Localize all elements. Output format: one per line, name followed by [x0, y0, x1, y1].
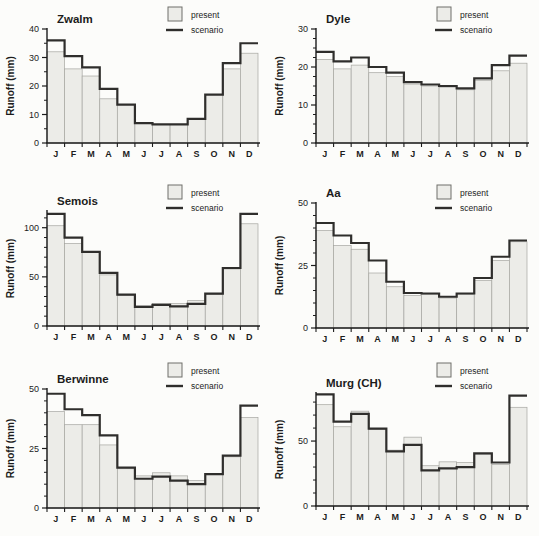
panel-title: Zwalm — [57, 13, 93, 25]
svg-text:A: A — [105, 149, 112, 159]
svg-text:20: 20 — [29, 81, 39, 91]
svg-text:M: M — [391, 149, 399, 159]
svg-text:D: D — [246, 332, 253, 342]
svg-text:N: N — [228, 514, 235, 524]
svg-text:F: F — [340, 512, 346, 522]
svg-text:25: 25 — [298, 261, 308, 271]
svg-text:A: A — [176, 332, 183, 342]
panel-zwalm: 010203040JFMAMJJASONDRunoff (mm)Zwalmpre… — [0, 0, 270, 178]
legend-scenario-label: scenario — [460, 381, 492, 391]
svg-text:D: D — [515, 334, 522, 344]
legend-present-label: present — [460, 366, 489, 376]
svg-text:J: J — [53, 149, 58, 159]
svg-text:A: A — [105, 514, 112, 524]
svg-text:A: A — [374, 512, 381, 522]
y-axis-label: Runoff (mm) — [5, 56, 16, 115]
svg-text:50: 50 — [298, 436, 308, 446]
svg-text:J: J — [322, 512, 327, 522]
svg-text:A: A — [374, 149, 381, 159]
svg-text:0: 0 — [34, 321, 39, 331]
legend-present-label: present — [460, 10, 489, 20]
svg-text:M: M — [122, 514, 130, 524]
legend-present-label: present — [191, 366, 220, 376]
y-axis-label: Runoff (mm) — [274, 56, 285, 115]
svg-text:A: A — [445, 334, 452, 344]
chart-zwalm: 010203040JFMAMJJASONDRunoff (mm)Zwalmpre… — [0, 0, 270, 178]
x-axis-months: JFMAMJJASOND — [47, 326, 258, 342]
legend-present-label: present — [191, 188, 220, 198]
svg-text:J: J — [53, 332, 58, 342]
legend-scenario-label: scenario — [191, 203, 223, 213]
svg-text:25: 25 — [29, 444, 39, 454]
svg-text:30: 30 — [298, 24, 308, 34]
svg-text:M: M — [391, 512, 399, 522]
x-axis-months: JFMAMJJASOND — [47, 508, 258, 524]
y-axis-label: Runoff (mm) — [274, 420, 285, 479]
runoff-figure: 010203040JFMAMJJASONDRunoff (mm)Zwalmpre… — [0, 0, 539, 536]
svg-text:0: 0 — [303, 501, 308, 511]
svg-text:S: S — [193, 149, 199, 159]
bars-present — [316, 231, 527, 329]
panel-title: Aa — [326, 187, 341, 199]
y-axis-label: Runoff (mm) — [274, 236, 285, 295]
legend: presentscenario — [435, 185, 492, 213]
bars-present — [316, 59, 527, 143]
svg-text:S: S — [462, 149, 468, 159]
svg-text:M: M — [356, 149, 364, 159]
panel-title: Murg (CH) — [326, 377, 382, 389]
svg-text:M: M — [87, 332, 95, 342]
legend: presentscenario — [166, 7, 223, 35]
svg-text:N: N — [497, 512, 504, 522]
legend: presentscenario — [166, 185, 223, 213]
panel-dyle: 0102030JFMAMJJASONDRunoff (mm)Dylepresen… — [269, 0, 539, 178]
svg-text:40: 40 — [29, 24, 39, 34]
svg-text:50: 50 — [29, 384, 39, 394]
panel-aa: 02550JFMAMJJASONDRunoff (mm)Aapresentsce… — [269, 178, 539, 356]
legend-present-swatch — [437, 363, 451, 377]
svg-text:J: J — [410, 334, 415, 344]
svg-text:J: J — [141, 514, 146, 524]
legend-present-swatch — [168, 7, 182, 21]
legend-present-label: present — [460, 188, 489, 198]
svg-text:S: S — [193, 514, 199, 524]
svg-text:M: M — [356, 512, 364, 522]
x-axis-months: JFMAMJJASOND — [316, 143, 527, 159]
svg-text:10: 10 — [298, 100, 308, 110]
svg-text:100: 100 — [24, 223, 39, 233]
panel-semois: 050100JFMAMJJASONDRunoff (mm)Semoisprese… — [0, 178, 270, 356]
svg-text:50: 50 — [29, 272, 39, 282]
svg-text:0: 0 — [303, 138, 308, 148]
svg-text:A: A — [105, 332, 112, 342]
panel-title: Dyle — [326, 13, 350, 25]
bars-present — [47, 224, 258, 326]
svg-text:J: J — [159, 149, 164, 159]
panel-murg-ch: 050JFMAMJJASONDRunoff (mm)Murg (CH)prese… — [269, 356, 539, 536]
bars-present — [47, 412, 258, 508]
svg-text:J: J — [428, 334, 433, 344]
legend-present-swatch — [168, 363, 182, 377]
x-axis-months: JFMAMJJASOND — [316, 506, 527, 522]
svg-text:J: J — [141, 332, 146, 342]
svg-text:J: J — [322, 149, 327, 159]
legend-present-swatch — [168, 185, 182, 199]
y-axis-label: Runoff (mm) — [5, 239, 16, 298]
svg-text:F: F — [71, 514, 77, 524]
chart-dyle: 0102030JFMAMJJASONDRunoff (mm)Dylepresen… — [269, 0, 539, 178]
svg-text:F: F — [71, 332, 77, 342]
svg-text:N: N — [497, 149, 504, 159]
svg-text:D: D — [246, 514, 253, 524]
chart-aa: 02550JFMAMJJASONDRunoff (mm)Aapresentsce… — [269, 178, 539, 356]
svg-text:O: O — [480, 334, 487, 344]
svg-text:D: D — [515, 149, 522, 159]
svg-text:50: 50 — [298, 198, 308, 208]
legend-scenario-label: scenario — [191, 25, 223, 35]
svg-text:M: M — [122, 332, 130, 342]
svg-text:M: M — [391, 334, 399, 344]
svg-text:S: S — [462, 334, 468, 344]
bars-present — [47, 52, 258, 143]
legend-present-swatch — [437, 185, 451, 199]
svg-text:F: F — [71, 149, 77, 159]
legend: presentscenario — [166, 363, 223, 391]
svg-text:O: O — [480, 149, 487, 159]
svg-text:F: F — [340, 334, 346, 344]
